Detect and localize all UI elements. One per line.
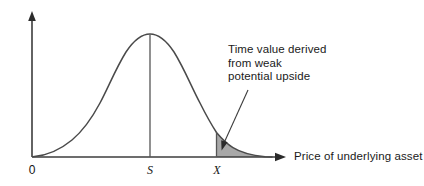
annotation-line-1: Time value derived [228,43,353,57]
x-axis-arrowhead [275,153,286,161]
y-axis-arrowhead [28,11,36,21]
annotation-text-block: Time value derived from weak potential u… [228,43,353,84]
annotation-leader-line [224,90,248,143]
x-tick-label-spot: S [140,163,160,178]
annotation-line-3: potential upside [228,70,353,84]
x-axis-label: Price of underlying asset [294,150,422,162]
x-tick-label-strike: X [207,163,227,178]
annotation-line-2: from weak [228,57,353,71]
figure-container: 0 S X Price of underlying asset Time val… [0,0,424,186]
x-tick-label-zero: 0 [22,163,42,177]
